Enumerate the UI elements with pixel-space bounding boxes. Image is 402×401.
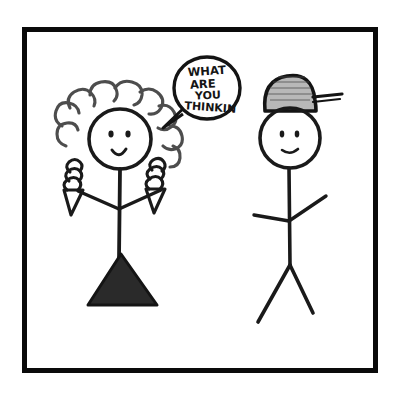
right-figure-torso [289,168,290,265]
cartoon-illustration: WHAT ARE YOU THINKIN [0,0,402,401]
left-figure-torso [119,169,120,259]
drawing-canvas: WHAT ARE YOU THINKIN [0,0,402,401]
